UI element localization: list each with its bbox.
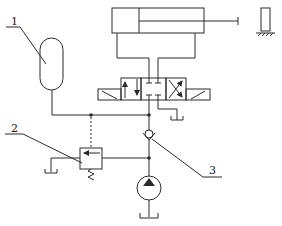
- label-3: 3: [209, 164, 216, 177]
- wall-stop: [256, 8, 275, 36]
- valve-position-center: [141, 78, 166, 100]
- valve-position-parallel: [121, 78, 141, 100]
- hydraulic-circuit-diagram: 1 2 3: [0, 0, 282, 226]
- pressure-line: [52, 100, 151, 130]
- check-valve: [143, 130, 155, 176]
- valve-tank-line: [158, 100, 183, 120]
- label-3-leader: 3: [152, 139, 222, 177]
- label-1: 1: [11, 15, 18, 28]
- pump: [137, 176, 161, 218]
- hydraulic-cylinder: [112, 8, 238, 33]
- label-2-leader: 2: [5, 122, 82, 163]
- cylinder-lines: [117, 33, 195, 78]
- directional-valve: [98, 78, 210, 100]
- label-2: 2: [11, 122, 18, 135]
- accumulator: [40, 38, 63, 115]
